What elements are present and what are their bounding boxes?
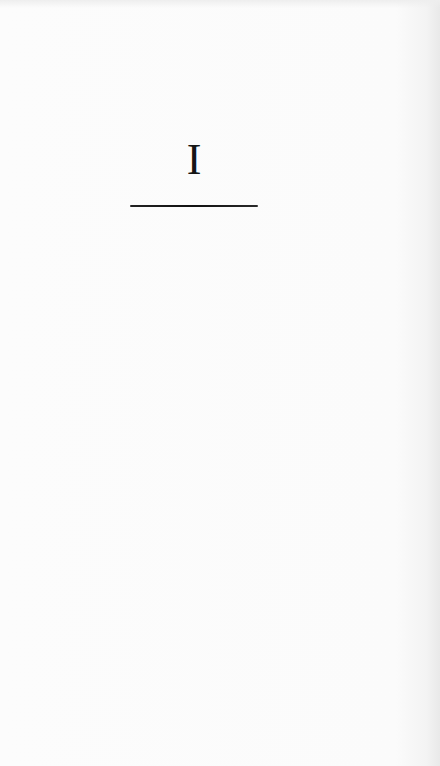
chapter-number-heading: I bbox=[0, 136, 388, 184]
chapter-heading-rule bbox=[130, 205, 258, 207]
book-page: I bbox=[0, 0, 440, 766]
page-top-edge-shadow bbox=[0, 0, 440, 8]
